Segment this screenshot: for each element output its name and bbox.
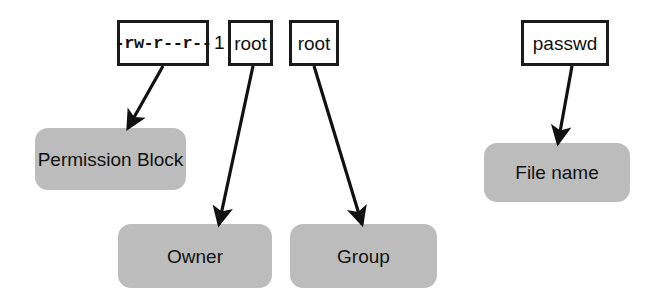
file-name-text: passwd [533, 34, 597, 53]
permission-block-label: Permission Block [38, 150, 184, 169]
permissions-text: -rw-r--r-- [114, 35, 211, 52]
arrow-file-name-to-file-name-label [558, 66, 572, 143]
owner-name-text: root [234, 34, 267, 53]
label-box-permission-block: Permission Block [35, 128, 186, 190]
code-box-owner-name: root [228, 20, 273, 66]
owner-label: Owner [167, 247, 223, 266]
group-name-text: root [298, 34, 331, 53]
arrow-permissions-to-permission-block [128, 66, 163, 128]
file-name-label: File name [515, 163, 598, 182]
code-box-file-name: passwd [521, 20, 609, 66]
code-box-group-name: root [289, 20, 339, 66]
diagram-canvas: -rw-r--r-- 1 root root passwd Permission… [0, 0, 665, 307]
label-box-owner: Owner [118, 224, 272, 288]
arrow-group-name-to-group [314, 66, 362, 224]
code-box-permissions: -rw-r--r-- [117, 20, 209, 66]
arrow-owner-name-to-owner [219, 66, 253, 224]
label-box-group: Group [290, 224, 437, 288]
label-box-file-name: File name [484, 143, 630, 202]
group-label: Group [337, 247, 390, 266]
link-count-text: 1 [214, 33, 225, 52]
